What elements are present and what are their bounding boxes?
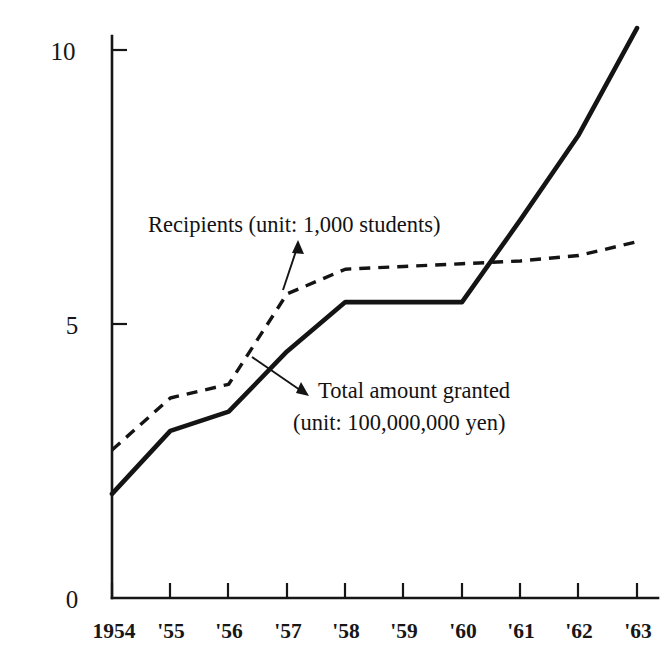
x-tick-label-1959: '59 bbox=[390, 619, 417, 643]
y-tick-label-10: 10 bbox=[51, 38, 76, 65]
x-tick-label-1955: '55 bbox=[157, 619, 184, 643]
x-tick-label-1962: '62 bbox=[565, 619, 592, 643]
x-tick-label-1956: '56 bbox=[215, 619, 243, 643]
y-tick-label-0: 0 bbox=[66, 586, 79, 613]
x-tick-label-1958: '58 bbox=[332, 619, 360, 643]
arrow-up-icon bbox=[292, 240, 304, 254]
y-tick-label-5: 5 bbox=[66, 312, 79, 339]
annotation-recipients-leader bbox=[283, 248, 297, 290]
x-tick-label-1963: '63 bbox=[624, 619, 652, 643]
annotation-total-label-line2: (unit: 100,000,000 yen) bbox=[293, 410, 505, 435]
x-tick-label-1954: 1954 bbox=[93, 619, 136, 643]
annotation-total-label-line1: Total amount granted bbox=[318, 378, 510, 403]
chart-container: 10 5 0 1954 '55 '56 '57 '58 '59 '60 '61 … bbox=[0, 0, 669, 671]
arrow-right-down-icon bbox=[296, 382, 309, 396]
annotation-recipients-label: Recipients (unit: 1,000 students) bbox=[148, 212, 440, 237]
x-tick-label-1961: '61 bbox=[507, 619, 534, 643]
line-chart: 10 5 0 1954 '55 '56 '57 '58 '59 '60 '61 … bbox=[0, 0, 669, 671]
x-tick-label-1960: '60 bbox=[449, 619, 476, 643]
x-tick-label-1957: '57 bbox=[274, 619, 302, 643]
